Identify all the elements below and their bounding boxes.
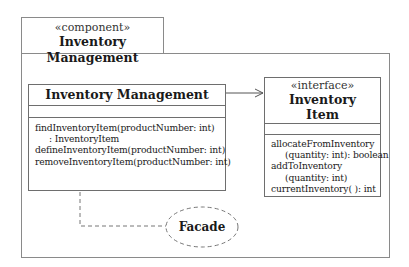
facade-dashed-link: [80, 192, 166, 226]
facade-label[interactable]: Facade: [166, 207, 238, 247]
